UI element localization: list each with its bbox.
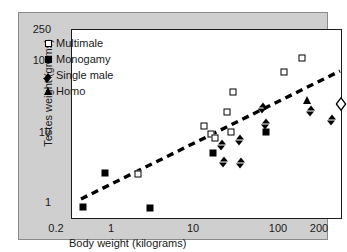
data-point-single-male — [220, 157, 228, 162]
open-square-marker — [299, 55, 306, 62]
data-point-single-male — [236, 135, 244, 140]
data-point-multimale — [281, 69, 288, 76]
chart-panel: 250 100 10 1 Testes weight (grams) 0.2 1… — [18, 12, 328, 240]
data-point-homo — [303, 96, 311, 104]
filled-square-marker — [102, 170, 109, 177]
legend-label: Multimale — [56, 37, 103, 49]
data-point-multimale — [228, 129, 235, 136]
legend: Multimale Monogamy Single male Homo — [40, 35, 160, 99]
filled-square-marker — [210, 150, 217, 157]
open-square-marker — [224, 109, 231, 116]
legend-label: Homo — [56, 85, 85, 97]
data-point-single-male — [259, 103, 267, 108]
filled-diamond-marker — [328, 115, 336, 120]
data-point-monogamy — [80, 204, 87, 211]
x-tick-label-0.2: 0.2 — [36, 223, 76, 234]
data-point-monogamy — [263, 129, 270, 136]
open-square-marker — [230, 89, 237, 96]
filled-diamond-marker — [307, 106, 315, 111]
x-tick-label-10: 10 — [173, 223, 213, 234]
filled-diamond-marker — [259, 103, 267, 108]
filled-diamond-icon — [40, 73, 56, 78]
y-tick-label-1: 1 — [21, 197, 51, 208]
open-diamond-marker — [336, 97, 347, 111]
filled-triangle-marker — [303, 96, 311, 104]
filled-diamond-marker — [262, 119, 270, 124]
data-point-monogamy — [102, 170, 109, 177]
x-axis-title: Body weight (kilograms) — [69, 237, 186, 249]
filled-diamond-marker — [218, 140, 226, 145]
legend-item-homo: Homo — [40, 83, 160, 99]
data-point-single-male — [237, 158, 245, 163]
filled-square-marker — [263, 129, 270, 136]
x-tick-label-1: 1 — [91, 223, 131, 234]
filled-triangle-icon — [40, 87, 56, 95]
legend-item-single-male: Single male — [40, 67, 160, 83]
legend-item-multimale: Multimale — [40, 35, 160, 51]
data-point-single-male — [262, 119, 270, 124]
data-point-multimale — [299, 55, 306, 62]
open-square-marker — [228, 129, 235, 136]
legend-label: Monogamy — [56, 53, 110, 65]
legend-item-monogamy: Monogamy — [40, 51, 160, 67]
data-point-multimale — [135, 171, 142, 178]
legend-label: Single male — [56, 69, 113, 81]
x-tick-label-100: 100 — [258, 223, 298, 234]
filled-square-icon — [40, 56, 56, 63]
open-square-marker — [281, 69, 288, 76]
data-point-single-male — [328, 115, 336, 120]
filled-diamond-marker — [237, 158, 245, 163]
filled-diamond-marker — [220, 157, 228, 162]
open-square-icon — [40, 40, 56, 47]
filled-square-marker — [80, 204, 87, 211]
data-point-single-male — [218, 140, 226, 145]
data-point-multimale — [230, 89, 237, 96]
data-point-multimale — [201, 123, 208, 130]
data-point-monogamy — [210, 150, 217, 157]
filled-square-marker — [147, 205, 154, 212]
open-square-marker — [201, 123, 208, 130]
x-tick-label-200: 200 — [299, 223, 339, 234]
data-point-multimale — [224, 109, 231, 116]
data-point-monogamy — [147, 205, 154, 212]
open-square-marker — [135, 171, 142, 178]
filled-diamond-marker — [236, 135, 244, 140]
data-point-single-male — [307, 106, 315, 111]
data-point-open-diamond — [336, 97, 347, 115]
